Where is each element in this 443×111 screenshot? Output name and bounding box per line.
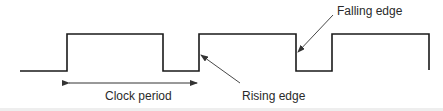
rising-edge-label: Rising edge [242,89,306,103]
falling-edge-label: Falling edge [337,4,403,18]
falling-edge-pointer [298,15,333,52]
clock-period-label: Clock period [105,89,172,103]
bottom-border [0,108,443,111]
clock-waveform [20,34,429,71]
rising-edge-pointer [201,55,240,83]
clock-diagram: Clock period Rising edge Falling edge [0,0,443,111]
